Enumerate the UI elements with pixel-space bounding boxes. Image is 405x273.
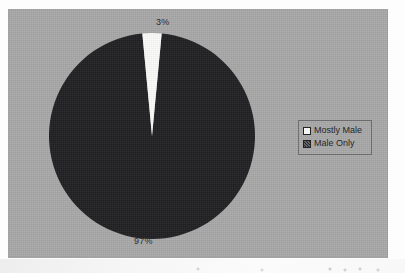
legend-item-mostly-male[interactable]: Mostly Male [303, 124, 367, 137]
data-label-male-only-percent: 97% [134, 236, 153, 246]
legend-label-mostly-male: Mostly Male [314, 125, 362, 136]
pie-chart-panel: 3% 97% Mostly Male Male Only [8, 9, 388, 258]
legend-swatch-icon-male-only [303, 140, 311, 148]
scan-artifact-specks [0, 266, 405, 273]
data-label-mostly-male-percent: 3% [156, 17, 169, 27]
legend-swatch-icon-mostly-male [303, 127, 311, 135]
chart-legend: Mostly Male Male Only [298, 120, 372, 155]
legend-label-male-only: Male Only [314, 138, 355, 149]
legend-item-male-only[interactable]: Male Only [303, 137, 367, 150]
